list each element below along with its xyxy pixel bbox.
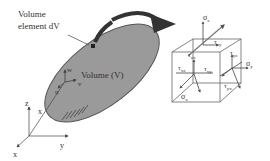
global-z-label: z	[25, 99, 29, 108]
sigma-z-label: σz	[203, 13, 210, 23]
local-v-label: v	[78, 80, 82, 88]
global-y-label: y	[60, 141, 64, 150]
sigma-y-label: σy	[246, 59, 253, 69]
position-x-label: x	[38, 107, 42, 116]
tau-xy-label: τxy	[204, 65, 212, 74]
tau-yz-label: τyz	[230, 49, 238, 58]
volume-element-dv	[91, 44, 95, 48]
global-x-label: x	[13, 150, 17, 159]
leader-line	[68, 35, 89, 45]
volume-label: Volume (V)	[81, 70, 124, 80]
sigma-x-label: σx	[181, 92, 188, 102]
volume-element-label-1: Volume	[18, 9, 46, 19]
tau-xz-label: τxz	[178, 64, 186, 73]
arrow-head-icon	[150, 14, 176, 33]
volume-element-label-2: element dV	[18, 21, 60, 31]
stress-diagram: Volume element dV Volume (V) w v u x z y…	[0, 0, 270, 161]
